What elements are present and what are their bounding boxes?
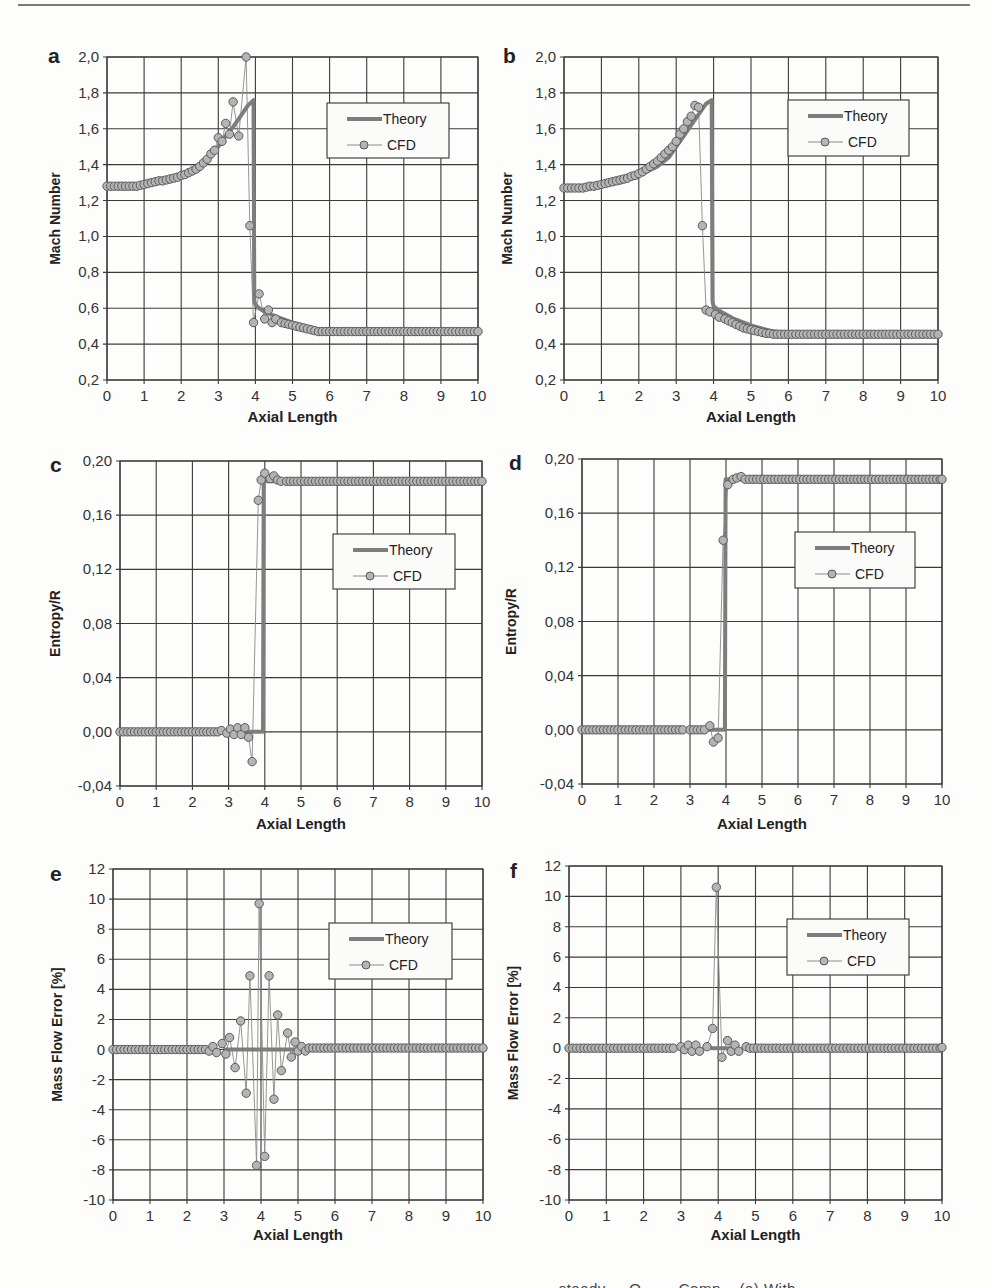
y-tick-label: 12 [544, 857, 561, 874]
tick-labels: 012345678910-10-8-6-4-2024681012 [539, 857, 950, 1224]
cfd-point [723, 1036, 731, 1044]
x-tick-label: 2 [639, 1207, 647, 1224]
y-tick-label: 0 [553, 1039, 561, 1056]
cfd-point [712, 883, 720, 891]
y-tick-label: -2 [548, 1070, 561, 1087]
y-tick-label: 6 [553, 948, 561, 965]
cfd-point [695, 1047, 703, 1055]
x-tick-label: 3 [677, 1207, 685, 1224]
x-tick-label: 9 [901, 1207, 909, 1224]
grid-lines [565, 866, 942, 1204]
y-tick-label: -4 [548, 1100, 561, 1117]
x-tick-label: 10 [934, 1207, 951, 1224]
x-tick-label: 0 [565, 1207, 573, 1224]
y-tick-label: -10 [539, 1191, 561, 1208]
x-tick-label: 8 [863, 1207, 871, 1224]
y-tick-label: 8 [553, 918, 561, 935]
legend-cfd-label: CFD [847, 953, 876, 969]
x-tick-label: 7 [826, 1207, 834, 1224]
y-tick-label: -8 [548, 1161, 561, 1178]
y-tick-label: 2 [553, 1009, 561, 1026]
y-tick-label: -6 [548, 1130, 561, 1147]
cfd-point [718, 1053, 726, 1061]
y-axis-label: Mass Flow Error [%] [505, 966, 521, 1101]
x-tick-label: 5 [751, 1207, 759, 1224]
legend: TheoryCFD [787, 919, 909, 975]
cfd-point [703, 1042, 711, 1050]
legend-theory-label: Theory [843, 927, 887, 943]
x-tick-label: 6 [789, 1207, 797, 1224]
y-tick-label: 10 [544, 887, 561, 904]
legend-cfd-marker [820, 957, 828, 965]
cfd-point [708, 1024, 716, 1032]
x-tick-label: 1 [602, 1207, 610, 1224]
cfd-point [735, 1047, 743, 1055]
cfd-point [669, 1044, 677, 1052]
y-tick-label: 4 [553, 978, 561, 995]
x-axis-label: Axial Length [710, 1226, 800, 1243]
x-tick-label: 4 [714, 1207, 722, 1224]
chart-svg-f: 012345678910-10-8-6-4-2024681012Axial Le… [0, 0, 993, 1288]
figure-caption-fragment: ... steady ... Q... ... Comp... (a) With… [540, 1280, 940, 1288]
cfd-point [938, 1043, 946, 1051]
